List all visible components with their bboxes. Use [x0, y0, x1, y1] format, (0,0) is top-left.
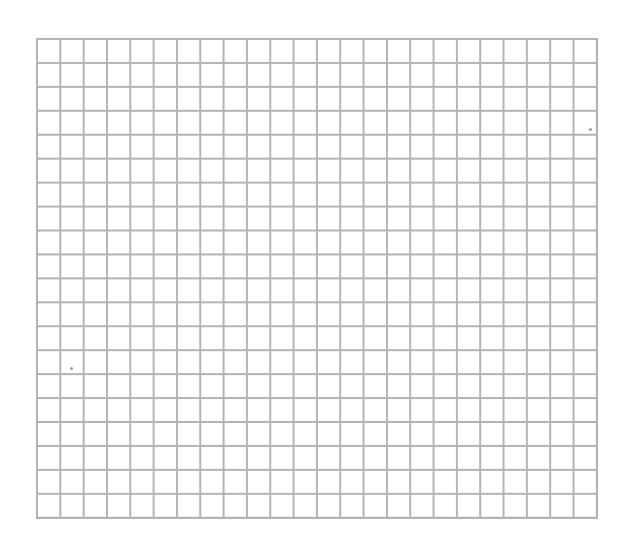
speck	[589, 128, 592, 131]
grid-paper	[36, 38, 598, 519]
speck	[70, 367, 73, 370]
